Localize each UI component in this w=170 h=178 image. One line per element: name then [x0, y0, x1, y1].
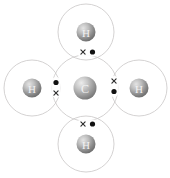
atom-hydrogen-left: H	[23, 79, 42, 98]
bond-pair-left	[52, 77, 61, 98]
diagram-canvas: H H H H C	[0, 0, 170, 178]
atom-label-hydrogen-bottom: H	[82, 139, 90, 151]
ch4-dot-and-cross-diagram: H H H H C	[0, 0, 170, 178]
atom-hydrogen-bottom: H	[77, 135, 96, 154]
atom-hydrogen-top: H	[77, 23, 96, 42]
electron-dot-left	[53, 80, 58, 85]
bond-pair-right	[110, 76, 119, 97]
atom-label-hydrogen-left: H	[28, 83, 36, 95]
atom-label-hydrogen-top: H	[82, 27, 90, 39]
atom-label-carbon-center: C	[81, 82, 89, 96]
atom-carbon-center: C	[74, 77, 97, 100]
bond-pair-top	[77, 48, 98, 57]
electron-dot-bottom	[90, 121, 95, 126]
bond-pair-bottom	[77, 120, 98, 129]
electron-dot-top	[90, 49, 95, 54]
atom-hydrogen-right: H	[130, 79, 149, 98]
electron-dot-right	[111, 89, 116, 94]
atom-label-hydrogen-right: H	[135, 83, 143, 95]
